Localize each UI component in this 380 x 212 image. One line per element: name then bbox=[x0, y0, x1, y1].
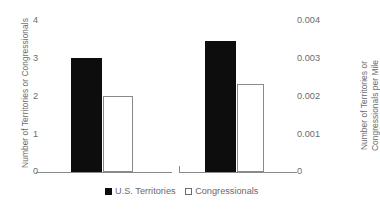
bar-counts-congressionals bbox=[103, 96, 133, 172]
filled-square-icon bbox=[105, 188, 112, 195]
bar-permile-us-territories bbox=[205, 41, 236, 172]
open-square-icon bbox=[185, 188, 192, 195]
legend-item-us-territories: U.S. Territories bbox=[105, 186, 176, 196]
left-axis-zero-tickmark bbox=[36, 172, 40, 173]
right-axis-tick-labels: 0.004 0.003 0.002 0.001 0 bbox=[297, 0, 331, 212]
right-tick-0002: 0.002 bbox=[297, 91, 320, 102]
right-tick-0003: 0.003 bbox=[297, 53, 320, 64]
right-axis-title-line1: Number of Territories or bbox=[359, 26, 370, 186]
chart-legend: U.S. Territories Congressionals bbox=[0, 186, 363, 196]
right-axis-title-line2: Congressionals per Mile bbox=[369, 26, 380, 186]
right-tick-0: 0 bbox=[297, 166, 302, 177]
right-tick-0001: 0.001 bbox=[297, 129, 320, 140]
right-panel-axis-cap bbox=[179, 166, 180, 173]
bar-counts-us-territories bbox=[71, 58, 102, 172]
legend-label-us-territories: U.S. Territories bbox=[115, 186, 176, 196]
left-panel-baseline bbox=[40, 172, 172, 173]
bar-permile-congressionals bbox=[237, 84, 264, 172]
right-tick-0004: 0.004 bbox=[297, 15, 320, 26]
legend-label-congressionals: Congressionals bbox=[195, 186, 258, 196]
right-panel-baseline bbox=[179, 172, 293, 173]
legend-item-congressionals: Congressionals bbox=[185, 186, 259, 196]
right-axis-title: Number of Territories or Congressionals … bbox=[359, 26, 380, 186]
